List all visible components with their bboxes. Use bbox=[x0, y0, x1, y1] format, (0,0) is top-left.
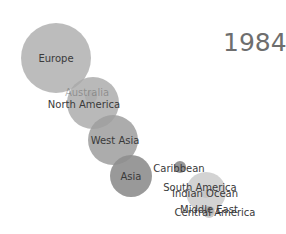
bubble-label-north-america: North America bbox=[48, 99, 120, 110]
bubble-label-europe: Europe bbox=[38, 53, 73, 64]
bubble-label-caribbean: Caribbean bbox=[153, 163, 204, 174]
bubble-label-australia: Australia bbox=[65, 87, 109, 98]
bubble-label-west-asia: West Asia bbox=[91, 135, 140, 146]
year-label: 1984 bbox=[223, 28, 286, 57]
bubble-label-asia: Asia bbox=[121, 171, 142, 182]
bubble-label-indian-ocean: Indian Ocean bbox=[172, 188, 238, 199]
bubble-label-middle-east: Middle East bbox=[180, 204, 238, 215]
bubble-chart: EuropeAustraliaNorth AmericaWest AsiaAsi… bbox=[0, 0, 286, 234]
